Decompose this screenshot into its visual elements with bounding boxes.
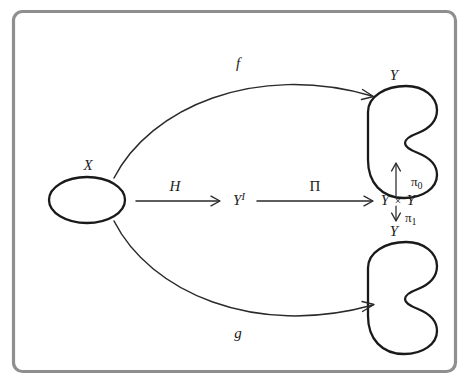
arrow-g-label: g — [234, 325, 242, 341]
arrow-pi-label: Π — [310, 178, 321, 194]
figure-root: X Y Y YI Y × Y H Π π0 π1 f — [0, 0, 470, 384]
diagram-canvas: X Y Y YI Y × Y H Π π0 π1 f — [0, 0, 470, 384]
arrow-h-label: H — [169, 178, 182, 194]
object-x-label: X — [82, 157, 93, 173]
